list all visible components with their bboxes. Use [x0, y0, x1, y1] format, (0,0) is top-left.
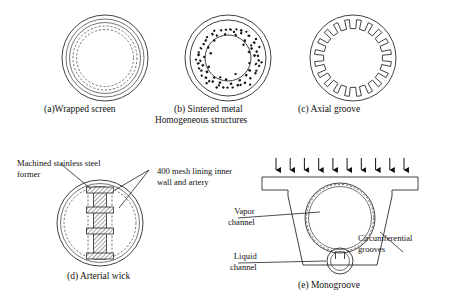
label-machined-former: Machined stainless steel former — [17, 158, 101, 179]
outer-wall-circle — [310, 15, 396, 101]
label-vapor-channel-line2: channel — [228, 217, 255, 228]
screen-layer-4-dashed — [77, 30, 134, 87]
groove-tooth-profile — [315, 20, 392, 97]
sinter-outer-boundary — [190, 20, 266, 96]
sintered-metal-drawing — [178, 12, 278, 104]
axial-groove-drawing — [300, 12, 406, 104]
leader-mesh-upper — [115, 170, 149, 190]
screen-layer-3-dashed — [73, 26, 137, 90]
label-mesh-lining-line2: wall and artery — [157, 177, 232, 188]
label-circumferential-grooves-line2: grooves — [358, 244, 412, 255]
panel-arterial-wick: (d) Arterial wick — [45, 178, 155, 270]
panel-sintered-metal: (b) Sintered metal — [178, 12, 278, 104]
former-central-column — [94, 187, 107, 259]
vapor-core-circle — [205, 35, 251, 81]
label-machined-former-line1: Machined stainless steel — [17, 158, 101, 169]
arterial-wick-drawing — [45, 178, 155, 270]
panel-axial-groove: (c) Axial groove — [300, 12, 406, 104]
panel-caption-e: (e) Monogroove — [298, 280, 360, 290]
panel-caption-b: (b) Sintered metal — [174, 104, 243, 114]
panel-wrapped-screen: (a)Wrapped screen — [52, 12, 158, 104]
label-circumferential-grooves-line1: Circumferential — [358, 233, 412, 244]
label-vapor-channel-line1: Vapor — [228, 206, 255, 217]
label-vapor-channel: Vapor channel — [228, 206, 255, 227]
label-liquid-channel: Liquid channel — [230, 251, 257, 272]
liquid-channel-inner-circle — [331, 252, 350, 271]
label-mesh-lining-line1: 400 mesh lining inner — [157, 166, 232, 177]
label-liquid-channel-line1: Liquid — [230, 251, 257, 262]
groove-tooth-ring — [315, 20, 392, 97]
label-mesh-lining: 400 mesh lining inner wall and artery — [157, 166, 232, 187]
former-crossbar-4 — [87, 253, 114, 259]
screen-layer-2 — [70, 23, 141, 94]
panel-monogroove: (e) Monogroove — [240, 160, 440, 285]
monogroove-drawing — [240, 160, 440, 285]
wrapped-screen-drawing — [52, 12, 158, 104]
screen-layer-1 — [66, 19, 144, 97]
panel-caption-a: (a)Wrapped screen — [44, 104, 116, 114]
panel-caption-c: (c) Axial groove — [298, 104, 360, 114]
outer-wall-circle — [62, 15, 148, 101]
label-liquid-channel-line2: channel — [230, 262, 257, 273]
label-circumferential-grooves: Circumferential grooves — [358, 233, 412, 254]
panel-caption-d: (d) Arterial wick — [67, 271, 130, 281]
group-caption-homogeneous: Homogeneous structures — [155, 115, 247, 125]
former-crossbar-2 — [87, 207, 114, 213]
heat-flux-arrows — [276, 158, 404, 170]
former-crossbar-3 — [87, 228, 114, 234]
label-machined-former-line2: former — [17, 169, 101, 180]
former-crossbar-1 — [87, 187, 114, 193]
